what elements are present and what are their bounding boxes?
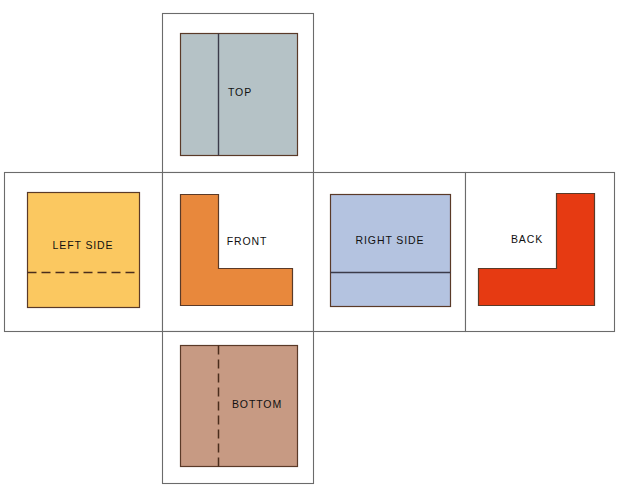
view-label-bottom: BOTTOM <box>232 398 282 410</box>
view-shape-right-side <box>331 195 451 307</box>
orthographic-unfolding-diagram: TOPLEFT SIDEFRONTRIGHT SIDEBACKBOTTOM <box>0 0 627 494</box>
view-label-front: FRONT <box>227 235 268 247</box>
view-label-right-side: RIGHT SIDE <box>356 234 425 246</box>
glass-box-svg: TOPLEFT SIDEFRONTRIGHT SIDEBACKBOTTOM <box>0 0 627 494</box>
view-label-top: TOP <box>228 86 252 98</box>
view-label-left-side: LEFT SIDE <box>52 239 113 251</box>
view-label-back: BACK <box>511 233 543 245</box>
